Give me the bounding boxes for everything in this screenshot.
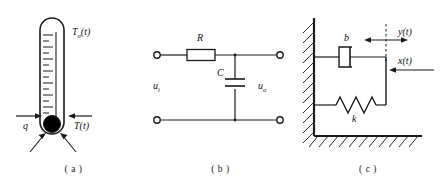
thermometer-bulb (44, 116, 61, 133)
label-y-displacement: y(t) (398, 27, 412, 37)
capacitor-symbol (225, 79, 245, 86)
label-capacitor: C (217, 68, 224, 78)
figure-container: To(t) T(t) q ( a ) (0, 0, 442, 180)
panel-thermometer: To(t) T(t) q ( a ) (0, 0, 147, 180)
panel-spring-damper: b k y(t) x(t) ( c ) (294, 0, 442, 180)
bulb-temp-arrow (68, 113, 92, 119)
label-x-displacement: x(t) (398, 56, 412, 66)
label-output-voltage: uo (258, 81, 266, 94)
spring-damper-diagram (294, 0, 442, 180)
label-input-voltage: ui (153, 81, 160, 94)
terminal-output-top (277, 52, 283, 58)
x-displacement-arrow (389, 67, 434, 73)
panel-rc-circuit: R C ui uo ( b ) (147, 0, 294, 180)
circuit-node-junction (234, 54, 237, 57)
y-displacement-arrow (364, 37, 408, 43)
ground-hatching (309, 136, 418, 147)
label-resistor: R (197, 33, 203, 43)
spring-coil (336, 97, 376, 113)
resistor-symbol (187, 50, 215, 61)
label-ambient-temperature: To(t) (72, 27, 90, 40)
terminal-output-bottom (277, 117, 283, 123)
caption-c: ( c ) (294, 164, 442, 174)
label-spring: k (352, 114, 356, 124)
wall-hatching (303, 22, 314, 143)
caption-b: ( b ) (147, 164, 294, 174)
label-bulb-temperature: T(t) (74, 121, 89, 134)
label-damper: b (344, 33, 349, 43)
heat-input-arrows (30, 133, 76, 152)
terminal-input-top (154, 52, 160, 58)
terminal-input-bottom (154, 117, 160, 123)
circuit-node-junction-bottom (234, 119, 237, 122)
rc-circuit-diagram (147, 0, 294, 180)
heat-flow-arrow (16, 113, 42, 119)
label-heat-flow: q (23, 121, 28, 131)
caption-a: ( a ) (0, 164, 147, 174)
